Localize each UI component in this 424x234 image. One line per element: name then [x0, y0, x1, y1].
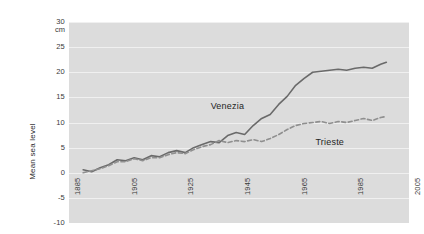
y-tick-label: 15 [31, 93, 65, 101]
x-tick-label: 1925 [186, 178, 195, 196]
x-tick-label: 1985 [356, 178, 365, 196]
y-axis-title: Mean sea level [28, 113, 37, 191]
sea-level-chart-figure: 30cm2520151050-5-10 Mean sea level Venez… [0, 0, 424, 234]
x-tick-label: 1945 [243, 178, 252, 196]
y-tick-label: 25 [31, 43, 65, 51]
y-tick-label: -5 [31, 194, 65, 202]
series-line-venezia [83, 62, 386, 172]
x-axis-tick-labels: 1885190519251945196519852005 [69, 169, 409, 219]
y-tick-label: -10 [31, 219, 65, 227]
series-label-trieste: Trieste [316, 137, 345, 147]
chart-card: 30cm2520151050-5-10 Mean sea level Venez… [15, 9, 409, 225]
x-tick-label: 1885 [73, 178, 82, 196]
x-tick-label: 1905 [130, 178, 139, 196]
y-tick-label: 20 [31, 68, 65, 76]
y-axis-unit-label: cm [31, 26, 65, 34]
x-tick-label: 2005 [413, 178, 422, 196]
x-tick-label: 1965 [300, 178, 309, 196]
series-label-venezia: Venezia [211, 101, 244, 111]
